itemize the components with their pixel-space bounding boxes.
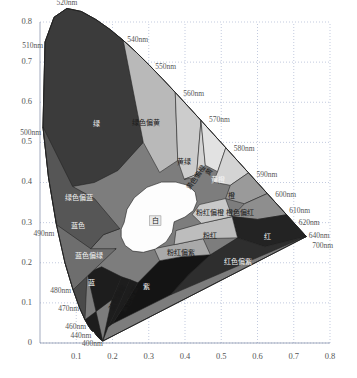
ytick-0.5: 0.5 xyxy=(21,136,32,146)
wavelength-label-560nm: 560nm xyxy=(183,89,204,98)
ytick-0.8: 0.8 xyxy=(21,16,32,26)
wavelength-label-470nm: 470nm xyxy=(58,304,79,313)
region-label-orange-red: 橙色偏红 xyxy=(226,208,254,217)
wavelength-label-520nm: 520nm xyxy=(57,0,78,7)
wavelength-label-440nm: 440nm xyxy=(70,331,91,340)
wavelength-label-540nm: 540nm xyxy=(127,35,148,44)
wavelength-label-620nm: 620nm xyxy=(299,218,320,227)
cie-diagram-svg: 绿绿色偏黄黄绿黄色偏橙黄黄橙橙橙色偏红粉红偏橙粉红粉红偏紫白红红色偏紫绿色偏蓝蓝… xyxy=(0,0,357,378)
wavelength-label-580nm: 580nm xyxy=(234,144,255,153)
region-label-green-yellow: 绿色偏黄 xyxy=(132,118,160,127)
xtick-0.4: 0.4 xyxy=(180,351,191,361)
wavelength-label-600nm: 600nm xyxy=(275,190,296,199)
region-label-blue-green: 蓝色偏绿 xyxy=(75,251,103,260)
region-label-blue-color: 蓝色 xyxy=(71,221,85,230)
xtick-0.6: 0.6 xyxy=(252,351,263,361)
chromaticity-diagram-figure: 绿绿色偏黄黄绿黄色偏橙黄黄橙橙橙色偏红粉红偏橙粉红粉红偏紫白红红色偏紫绿色偏蓝蓝… xyxy=(0,0,357,378)
region-label-yellow-green: 黄绿 xyxy=(177,157,191,166)
wavelength-label-610nm: 610nm xyxy=(289,206,310,215)
xtick-0.3: 0.3 xyxy=(143,351,154,361)
wavelength-label-460nm: 460nm xyxy=(65,322,86,331)
region-label-red: 红 xyxy=(264,232,271,241)
ytick-0.7: 0.7 xyxy=(21,56,32,66)
ytick-0.3: 0.3 xyxy=(21,217,32,227)
wavelength-label-500nm: 500nm xyxy=(20,128,41,137)
xtick-0.8: 0.8 xyxy=(325,351,336,361)
region-label-white: 白 xyxy=(152,216,159,225)
region-label-pink: 粉红 xyxy=(203,231,217,240)
wavelength-label-590nm: 590nm xyxy=(257,170,278,179)
region-label-yellow-orange2: 黄橙 xyxy=(211,175,225,184)
ytick-0.4: 0.4 xyxy=(21,176,32,186)
wavelength-label-570nm: 570nm xyxy=(209,115,230,124)
wavelength-label-480nm: 480nm xyxy=(50,286,71,295)
ytick-0: 0 xyxy=(28,337,32,347)
ytick-0.6: 0.6 xyxy=(21,96,32,106)
wavelength-label-640nm: 640nm xyxy=(309,231,330,240)
wavelength-label-490nm: 490nm xyxy=(34,229,55,238)
ytick-0.1: 0.1 xyxy=(21,297,32,307)
region-label-pink-purple: 粉红偏紫 xyxy=(167,248,195,257)
wavelength-label-510nm: 510nm xyxy=(22,41,43,50)
xtick-0.2: 0.2 xyxy=(107,351,118,361)
xtick-0.5: 0.5 xyxy=(216,351,227,361)
region-label-pink-orange: 粉红偏橙 xyxy=(196,208,224,217)
region-label-red-purple: 红色偏紫 xyxy=(224,257,252,266)
wavelength-label-550nm: 550nm xyxy=(155,62,176,71)
ytick-0.2: 0.2 xyxy=(21,257,32,267)
wavelength-label-700nm: 700nm xyxy=(312,241,333,250)
region-label-green: 绿 xyxy=(93,119,100,128)
xtick-0.1: 0.1 xyxy=(71,351,82,361)
region-label-orange: 橙 xyxy=(228,191,235,200)
region-label-green-blue: 绿色偏蓝 xyxy=(65,193,93,202)
region-label-blue: 蓝 xyxy=(88,278,95,287)
xtick-0.7: 0.7 xyxy=(288,351,299,361)
region-label-violet: 紫 xyxy=(143,283,150,291)
